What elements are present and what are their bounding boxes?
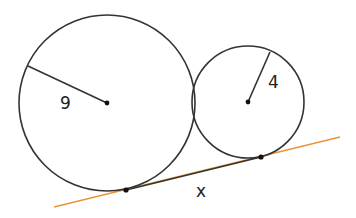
tangent-segment-x <box>126 157 261 190</box>
small-center-point <box>246 100 251 105</box>
large-center-point <box>105 101 110 106</box>
small-radius-line <box>248 52 270 102</box>
tangent-point-large <box>123 187 128 192</box>
segment-label-x: x <box>196 181 206 201</box>
tangent-circles-diagram: ) 9 4 x <box>0 0 356 218</box>
tangent-point-small <box>258 154 263 159</box>
small-radius-label: 4 <box>268 72 279 92</box>
partial-label: ) <box>0 12 1 32</box>
large-radius-label: 9 <box>60 93 71 113</box>
